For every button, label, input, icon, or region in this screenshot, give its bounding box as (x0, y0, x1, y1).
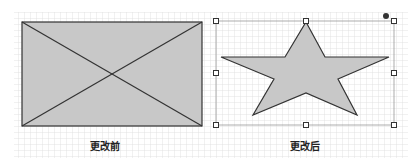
rotation-handle-icon[interactable] (383, 13, 389, 19)
caption-before: 更改前 (75, 138, 135, 153)
handle-top-left[interactable] (214, 19, 219, 24)
handle-bottom-left[interactable] (214, 123, 219, 128)
handle-top-center[interactable] (304, 19, 309, 24)
handle-middle-right[interactable] (392, 71, 397, 76)
caption-after: 更改后 (275, 138, 335, 153)
handle-bottom-center[interactable] (304, 123, 309, 128)
handle-middle-left[interactable] (214, 71, 219, 76)
drawing-canvas[interactable] (0, 0, 416, 167)
handle-top-right[interactable] (392, 19, 397, 24)
rectangle-shape[interactable] (22, 22, 202, 126)
handle-bottom-right[interactable] (392, 123, 397, 128)
